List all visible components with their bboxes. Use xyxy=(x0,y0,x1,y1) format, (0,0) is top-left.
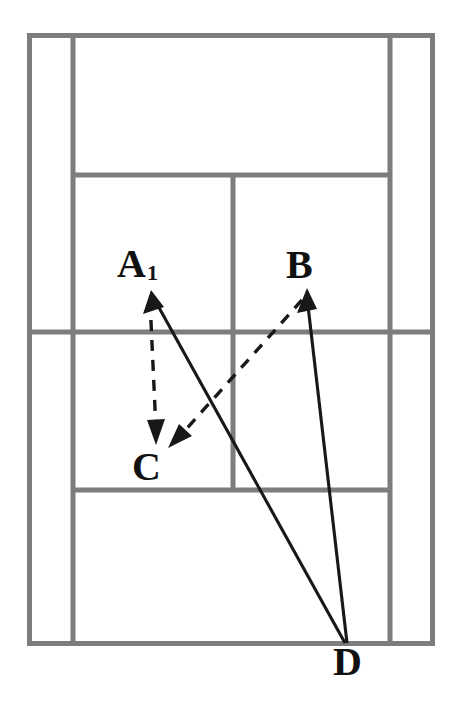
point-label-d-text: D xyxy=(333,639,362,684)
path-d-to-b-line xyxy=(307,297,347,643)
path-a1-to-c-arrowhead xyxy=(147,419,165,445)
court-lines-group xyxy=(29,35,433,644)
path-a1-to-c-line xyxy=(150,300,156,430)
point-label-a1: A1 xyxy=(117,244,157,284)
movement-paths-group xyxy=(143,288,347,643)
point-label-c: C xyxy=(132,447,161,487)
point-label-b-text: B xyxy=(286,242,313,287)
path-d-to-a1 xyxy=(143,290,345,643)
path-b-to-c-line xyxy=(180,300,302,436)
path-d-to-a1-line xyxy=(152,295,345,643)
point-label-a1-subscript: 1 xyxy=(147,260,158,285)
point-label-b: B xyxy=(286,245,313,285)
point-label-d: D xyxy=(333,642,362,682)
court-diagram-canvas xyxy=(0,0,459,707)
path-d-to-b xyxy=(297,288,347,643)
point-label-c-text: C xyxy=(132,444,161,489)
court-movement-diagram: A1 B C D xyxy=(0,0,459,707)
path-a1-to-c xyxy=(147,300,165,445)
point-label-a1-text: A xyxy=(117,241,146,286)
